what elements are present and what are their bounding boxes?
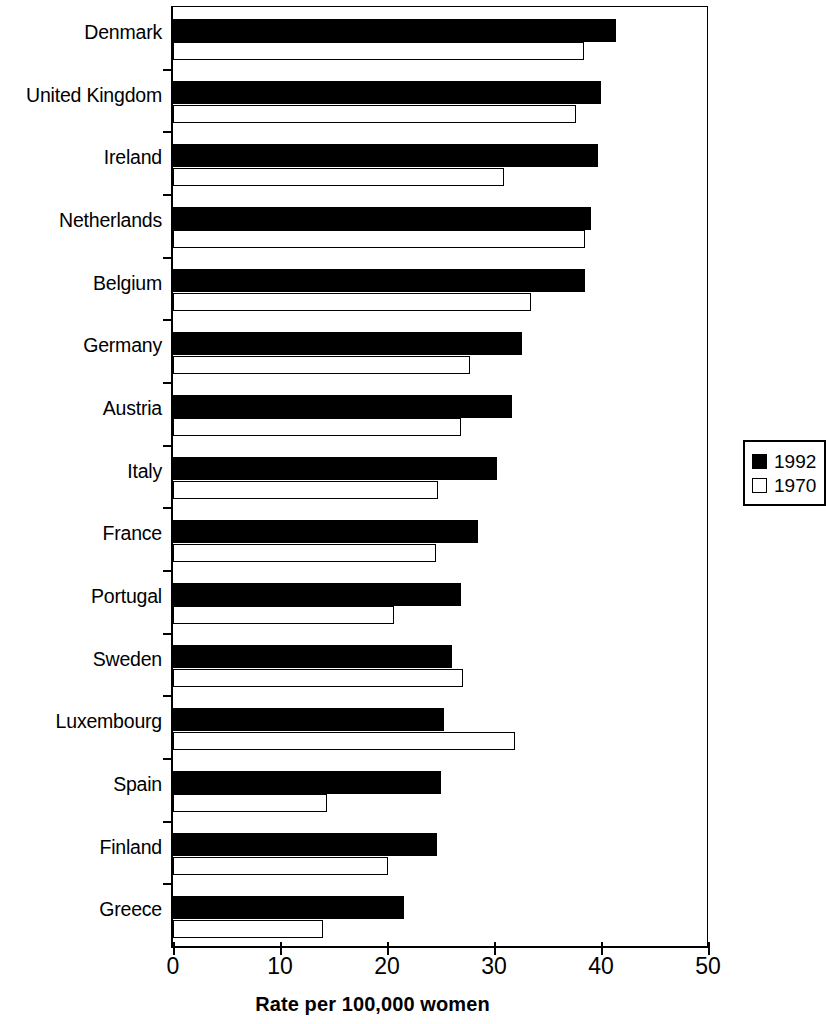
bar-1970-ireland [173,168,504,186]
bar-1992-sweden [173,645,452,668]
category-row: United Kingdom [0,69,822,132]
category-label-portugal: Portugal [91,587,162,607]
bar-1992-portugal [173,583,461,606]
bar-1970-spain [173,794,327,812]
category-label-finland: Finland [99,838,162,858]
category-label-ireland: Ireland [104,148,162,168]
x-tick-label-50: 50 [695,955,721,978]
x-tick-label-10: 10 [267,955,293,978]
bar-1992-netherlands [173,207,591,230]
category-label-italy: Italy [127,462,162,482]
category-row: Ireland [0,131,822,194]
y-axis-tick [163,883,173,885]
bar-1970-france [173,544,436,562]
chart-legend: 1992 1970 [743,440,826,506]
x-tick-label-40: 40 [588,955,614,978]
bar-1970-portugal [173,606,394,624]
category-row: Belgium [0,257,822,320]
bar-1992-spain [173,771,441,794]
legend-swatch-1970-icon [752,478,767,493]
x-axis-line [171,946,708,948]
bar-1992-greece [173,896,404,919]
bar-1970-germany [173,356,470,374]
bar-1992-denmark [173,19,616,42]
x-tick-label-0: 0 [167,955,180,978]
bar-1992-united-kingdom [173,81,601,104]
x-tick-label-30: 30 [481,955,507,978]
category-label-austria: Austria [103,399,162,419]
y-axis-tick [163,445,173,447]
category-label-denmark: Denmark [84,23,162,43]
y-axis-tick [163,758,173,760]
bar-1970-italy [173,481,438,499]
y-axis-tick [163,570,173,572]
bar-1970-greece [173,920,323,938]
category-row: Luxembourg [0,695,822,758]
y-axis-tick [163,319,173,321]
y-axis-tick [163,131,173,133]
y-axis-tick [163,257,173,259]
bar-1992-finland [173,833,437,856]
legend-item: 1992 [752,449,816,473]
bar-1992-france [173,520,478,543]
category-row: France [0,507,822,570]
category-label-sweden: Sweden [93,650,162,670]
category-row: Finland [0,821,822,884]
bar-1970-netherlands [173,230,585,248]
bar-1970-united-kingdom [173,105,576,123]
bar-1970-denmark [173,42,584,60]
bar-1992-austria [173,395,512,418]
y-axis-tick [163,633,173,635]
bar-1992-italy [173,457,497,480]
category-row: Spain [0,758,822,821]
x-axis-title: Rate per 100,000 women [0,993,745,1016]
category-row: Netherlands [0,194,822,257]
bar-1970-belgium [173,293,531,311]
category-row: Italy [0,445,822,508]
category-row: Sweden [0,633,822,696]
category-label-united-kingdom: United Kingdom [26,86,162,106]
bar-1992-ireland [173,144,598,167]
category-row: Germany [0,319,822,382]
category-label-spain: Spain [113,775,162,795]
category-label-france: France [103,524,163,544]
bar-1970-sweden [173,669,463,687]
category-row: Portugal [0,570,822,633]
y-axis-tick [163,382,173,384]
legend-item: 1970 [752,473,816,497]
category-label-belgium: Belgium [93,274,162,294]
legend-label-1970: 1970 [774,476,816,495]
category-row: Austria [0,382,822,445]
bar-1992-luxembourg [173,708,444,731]
y-axis-tick [163,69,173,71]
category-label-germany: Germany [83,336,162,356]
legend-label-1992: 1992 [774,452,816,471]
y-axis-tick [163,507,173,509]
bar-1992-germany [173,332,522,355]
y-axis-tick [163,194,173,196]
x-tick-label-20: 20 [374,955,400,978]
y-axis-tick [163,695,173,697]
bar-1970-austria [173,418,461,436]
bar-1992-belgium [173,269,585,292]
category-label-greece: Greece [99,900,162,920]
bar-1970-luxembourg [173,732,515,750]
bar-1970-finland [173,857,388,875]
category-label-luxembourg: Luxembourg [56,712,162,732]
category-row: Greece [0,883,822,946]
category-row: Denmark [0,6,822,69]
y-axis-tick [163,821,173,823]
category-label-netherlands: Netherlands [59,211,162,231]
legend-swatch-1992-icon [752,454,767,469]
